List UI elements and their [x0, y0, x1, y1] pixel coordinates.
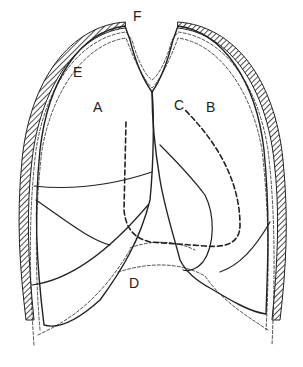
fissure-a-lower [32, 205, 148, 285]
diagram-drawing [0, 0, 303, 367]
costophrenic-left [38, 250, 130, 335]
label-f: F [133, 9, 142, 23]
pleura-outer [30, 32, 274, 345]
fissure-a-oblique [36, 200, 110, 245]
label-a: A [93, 100, 102, 114]
fissure-a-horizontal [34, 172, 152, 187]
label-b: B [206, 100, 215, 114]
label-c: C [174, 98, 184, 112]
label-e: E [73, 65, 82, 79]
cardiac-notch [160, 145, 212, 271]
label-d: D [129, 276, 139, 290]
lung-diagram: A B C D E F [0, 0, 303, 367]
fissure-b-oblique [220, 222, 270, 272]
